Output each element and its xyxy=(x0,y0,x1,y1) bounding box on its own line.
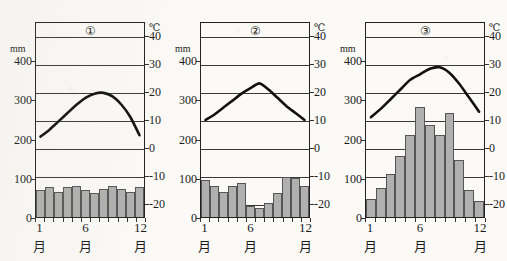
precipitation-tickmark xyxy=(31,179,35,180)
temperature-tickmark xyxy=(145,204,149,205)
temperature-tickmark xyxy=(310,36,314,37)
month-axis-label: 12月 xyxy=(292,221,318,254)
month-number: 6 xyxy=(237,221,263,235)
precipitation-tick-label: 300 xyxy=(330,94,362,106)
month-tickmark xyxy=(53,218,54,222)
panel-number-label: ② xyxy=(201,24,309,38)
climograph-3: ③mm4003002001000℃403020100-10-201月6月12月 xyxy=(330,11,496,261)
temperature-tickmark xyxy=(485,92,489,93)
temperature-tick-label: 30 xyxy=(489,58,507,70)
precipitation-axis-unit: mm xyxy=(175,44,191,54)
precipitation-tick: 400 xyxy=(165,55,197,67)
month-unit-character: 月 xyxy=(237,240,263,254)
temperature-tick: 40 xyxy=(489,30,507,42)
clipped-header-text xyxy=(0,0,507,11)
temperature-tick: 20 xyxy=(489,86,507,98)
temperature-tickmark xyxy=(145,176,149,177)
month-tickmark xyxy=(435,218,436,222)
month-number: 12 xyxy=(127,221,153,235)
precipitation-tick-label: 200 xyxy=(165,134,197,146)
month-axis-label: 12月 xyxy=(467,221,493,254)
month-unit-character: 月 xyxy=(192,240,218,254)
month-axis-label: 1月 xyxy=(27,221,53,254)
panel-number-label: ① xyxy=(36,24,144,38)
precipitation-tickmark xyxy=(361,140,365,141)
temperature-tickmark xyxy=(310,204,314,205)
month-axis-label: 6月 xyxy=(72,221,98,254)
precipitation-tick: 200 xyxy=(165,134,197,146)
precipitation-tick-label: 300 xyxy=(165,94,197,106)
climograph-1: ①mm4003002001000℃403020100-10-201月6月12月 xyxy=(0,11,166,261)
temperature-tick-label: 40 xyxy=(489,30,507,42)
temperature-tick-label: -10 xyxy=(489,170,507,182)
precipitation-tick-label: 300 xyxy=(0,94,32,106)
temperature-tick: -20 xyxy=(489,198,507,210)
temperature-tickmark xyxy=(310,148,314,149)
month-tickmark xyxy=(63,218,64,222)
panel-number-label: ③ xyxy=(366,24,484,38)
month-tickmark xyxy=(264,218,265,222)
precipitation-tick-label: 200 xyxy=(0,134,32,146)
precipitation-tick-label: 100 xyxy=(0,173,32,185)
month-unit-character: 月 xyxy=(72,240,98,254)
temperature-curve xyxy=(366,23,484,217)
precipitation-tick: 200 xyxy=(330,134,362,146)
temperature-tick-label: -20 xyxy=(489,198,507,210)
precipitation-tick: 300 xyxy=(165,94,197,106)
temperature-tick: 0 xyxy=(489,142,507,154)
month-unit-character: 月 xyxy=(27,240,53,254)
month-tickmark xyxy=(283,218,284,222)
month-number: 1 xyxy=(357,221,383,235)
month-tickmark xyxy=(455,218,456,222)
month-tickmark xyxy=(218,218,219,222)
temperature-tickmark xyxy=(485,148,489,149)
temperature-tickmark xyxy=(310,120,314,121)
precipitation-tickmark xyxy=(196,140,200,141)
precipitation-tick: 300 xyxy=(330,94,362,106)
month-unit-character: 月 xyxy=(292,240,318,254)
precipitation-tick: 400 xyxy=(330,55,362,67)
month-unit-character: 月 xyxy=(407,240,433,254)
month-tickmark xyxy=(405,218,406,222)
temperature-tick: 30 xyxy=(489,58,507,70)
plot-area: ② xyxy=(200,22,310,218)
climograph-figure-row: ①mm4003002001000℃403020100-10-201月6月12月②… xyxy=(0,11,507,261)
precipitation-tick: 300 xyxy=(0,94,32,106)
plot-area: ③ xyxy=(365,22,485,218)
temperature-tickmark xyxy=(485,204,489,205)
temperature-tickmark xyxy=(485,64,489,65)
temperature-tickmark xyxy=(145,120,149,121)
month-axis-label: 1月 xyxy=(192,221,218,254)
month-number: 6 xyxy=(407,221,433,235)
month-tickmark xyxy=(273,218,274,222)
precipitation-tick-label: 100 xyxy=(165,173,197,185)
precipitation-tick-label: 400 xyxy=(330,55,362,67)
temperature-tick: -10 xyxy=(489,170,507,182)
precipitation-tickmark xyxy=(196,179,200,180)
temperature-tick: 10 xyxy=(489,114,507,126)
temperature-tickmark xyxy=(310,64,314,65)
month-number: 6 xyxy=(72,221,98,235)
month-unit-character: 月 xyxy=(357,240,383,254)
month-tickmark xyxy=(395,218,396,222)
climograph-2: ②mm4003002001000℃403020100-10-201月6月12月 xyxy=(165,11,331,261)
precipitation-axis-unit: mm xyxy=(340,44,356,54)
precipitation-tick: 100 xyxy=(330,173,362,185)
month-tickmark xyxy=(465,218,466,222)
temperature-tickmark xyxy=(145,36,149,37)
temperature-curve xyxy=(36,23,144,217)
temperature-tickmark xyxy=(485,176,489,177)
precipitation-tickmark xyxy=(361,61,365,62)
temperature-curve xyxy=(201,23,309,217)
month-number: 1 xyxy=(27,221,53,235)
month-tickmark xyxy=(118,218,119,222)
month-axis-label: 1月 xyxy=(357,221,383,254)
precipitation-tickmark xyxy=(196,61,200,62)
plot-area: ① xyxy=(35,22,145,218)
month-tickmark xyxy=(445,218,446,222)
precipitation-tick: 100 xyxy=(0,173,32,185)
temperature-tickmark xyxy=(485,36,489,37)
precipitation-tick-label: 400 xyxy=(0,55,32,67)
month-tickmark xyxy=(108,218,109,222)
month-unit-character: 月 xyxy=(467,240,493,254)
